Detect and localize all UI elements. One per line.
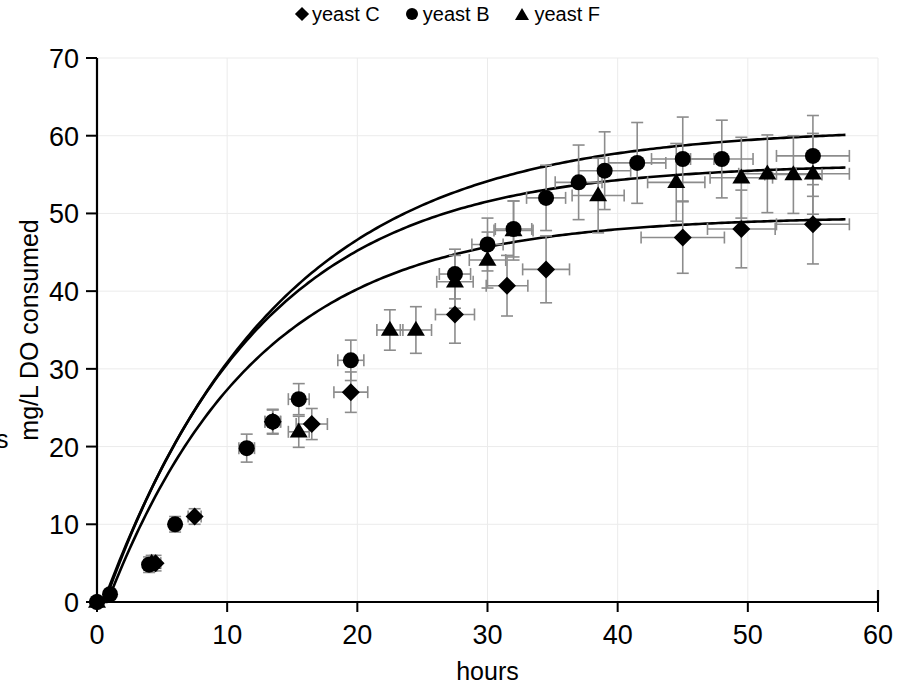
axes [86, 58, 878, 612]
svg-text:10: 10 [49, 510, 79, 540]
chart-figure: yeast C yeast B yeast F 0102030405060700… [0, 0, 897, 688]
data-point-yeast-b [102, 586, 118, 602]
data-point-yeast-b [597, 163, 613, 179]
svg-text:50: 50 [733, 620, 763, 650]
x-axis-title: hours [456, 657, 519, 685]
svg-text:50: 50 [49, 199, 79, 229]
error-bars [91, 116, 849, 602]
data-point-yeast-c [186, 508, 204, 526]
svg-text:70: 70 [49, 44, 79, 74]
data-point-yeast-f [407, 321, 425, 336]
svg-text:60: 60 [49, 122, 79, 152]
svg-text:0: 0 [89, 620, 104, 650]
data-point-yeast-b [571, 174, 587, 190]
data-point-yeast-f [758, 164, 776, 179]
data-markers [88, 148, 822, 611]
svg-text:40: 40 [49, 277, 79, 307]
data-point-yeast-b [629, 155, 645, 171]
data-point-yeast-b [265, 414, 281, 430]
svg-text:60: 60 [863, 620, 893, 650]
data-point-yeast-f [479, 251, 497, 266]
data-point-yeast-b [167, 516, 183, 532]
svg-text:20: 20 [49, 433, 79, 463]
data-point-yeast-c [674, 229, 692, 247]
data-point-yeast-b [343, 352, 359, 368]
data-point-yeast-b [675, 151, 691, 167]
data-point-yeast-c [498, 277, 516, 295]
y-axis-title: mg/L DO consumed [15, 219, 43, 440]
data-point-yeast-b [480, 237, 496, 253]
data-point-yeast-f [804, 164, 822, 179]
data-point-yeast-c [446, 305, 464, 323]
plot-area: 0102030405060700102030405060 hours mg/L … [0, 0, 897, 688]
data-point-yeast-b [291, 391, 307, 407]
data-point-yeast-b [239, 440, 255, 456]
data-point-yeast-b [538, 190, 554, 206]
svg-text:30: 30 [472, 620, 502, 650]
svg-text:0: 0 [64, 588, 79, 618]
svg-text:40: 40 [603, 620, 633, 650]
data-point-yeast-c [537, 260, 555, 278]
data-point-yeast-b [714, 151, 730, 167]
data-point-yeast-b [805, 148, 821, 164]
svg-text:10: 10 [212, 620, 242, 650]
data-point-yeast-c [303, 415, 321, 433]
svg-text:20: 20 [342, 620, 372, 650]
clipped-outer-label: s [0, 425, 9, 453]
data-point-yeast-c [804, 215, 822, 233]
svg-text:30: 30 [49, 355, 79, 385]
data-point-yeast-f [381, 321, 399, 336]
